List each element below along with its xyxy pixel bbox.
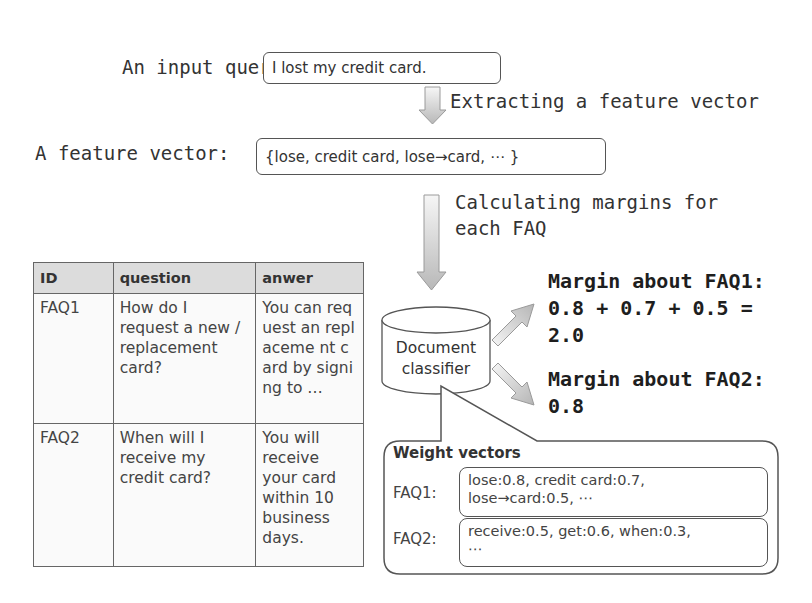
weight-vector-faq1-box: lose:0.8, credit card:0.7, lose→card:0.5… (459, 467, 768, 517)
weight-vector-faq2-line2: ⋯ (468, 540, 759, 558)
margin-faq1: Margin about FAQ1: 0.8 + 0.7 + 0.5 = 2.0 (548, 268, 765, 349)
cell-question: When will I receive my credit card? (113, 424, 256, 567)
column-header-answer: anwer (256, 263, 364, 294)
weight-vector-faq1-label: FAQ1: (393, 484, 437, 502)
table-row: FAQ1 How do I request a new / replacemen… (34, 294, 364, 424)
classifier-label: Document classifier (382, 338, 490, 380)
margin-faq1-title: Margin about FAQ1: (548, 268, 765, 295)
classifier-line1: Document (382, 338, 490, 359)
feature-vector-box: {lose, credit card, lose→card, ⋯ } (256, 138, 606, 175)
margin-faq2-value: 0.8 (548, 393, 765, 420)
input-query-box: I lost my credit card. (263, 52, 501, 84)
column-header-id: ID (34, 263, 114, 294)
cell-answer: You will receive your card within 10 bus… (256, 424, 364, 567)
feature-vector-value: {lose, credit card, lose→card, ⋯ } (265, 148, 519, 166)
step-margins-line2: each FAQ (455, 215, 718, 241)
weight-vector-faq2-line1: receive:0.5, get:0.6, when:0.3, (468, 522, 759, 540)
cell-answer: You can request an replaceme nt card by … (256, 294, 364, 424)
step-margins-label: Calculating margins for each FAQ (455, 189, 718, 241)
diagonal-up-arrow-icon (492, 304, 534, 346)
faq-table-header: ID question anwer (34, 263, 364, 294)
weight-vector-faq2-box: receive:0.5, get:0.6, when:0.3, ⋯ (459, 518, 768, 567)
margin-faq1-formula: 0.8 + 0.7 + 0.5 = (548, 295, 765, 322)
step-extract-label: Extracting a feature vector (450, 88, 759, 114)
feature-vector-label: A feature vector: (35, 142, 229, 164)
weight-vectors-title: Weight vectors (393, 444, 521, 462)
down-arrow-icon (419, 87, 446, 124)
classifier-line2: classifier (382, 359, 490, 380)
margin-faq2: Margin about FAQ2: 0.8 (548, 366, 765, 420)
margin-faq1-total: 2.0 (548, 322, 765, 349)
weight-vector-faq1-line2: lose→card:0.5, ⋯ (468, 489, 759, 507)
weight-vector-faq1-line1: lose:0.8, credit card:0.7, (468, 471, 759, 489)
step-margins-line1: Calculating margins for (455, 189, 718, 215)
diagonal-down-arrow-icon (492, 363, 534, 405)
down-arrow-icon (417, 195, 446, 290)
cell-id: FAQ1 (34, 294, 114, 424)
margin-faq2-title: Margin about FAQ2: (548, 366, 765, 393)
input-query-value: I lost my credit card. (272, 59, 427, 77)
cell-id: FAQ2 (34, 424, 114, 567)
table-row: FAQ2 When will I receive my credit card?… (34, 424, 364, 567)
cell-question: How do I request a new / replacement car… (113, 294, 256, 424)
faq-table: ID question anwer FAQ1 How do I request … (33, 262, 364, 567)
column-header-question: question (113, 263, 256, 294)
weight-vector-faq2-label: FAQ2: (393, 530, 437, 548)
